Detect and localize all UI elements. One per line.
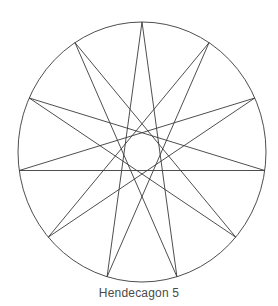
circumscribed-circle [18,22,266,282]
star-edge [107,43,209,277]
star-polygon-lines [19,22,264,277]
star-edge [48,98,255,237]
star-edge [19,98,255,171]
hendecagon-star-diagram [0,0,278,286]
star-edge [75,43,236,237]
star-edge [29,98,236,237]
star-edge [142,22,177,277]
star-edge [48,43,209,237]
diagram-caption: Hendecagon 5 [0,286,278,300]
star-edge [75,43,177,277]
star-edge [29,98,265,171]
star-edge [107,22,142,277]
